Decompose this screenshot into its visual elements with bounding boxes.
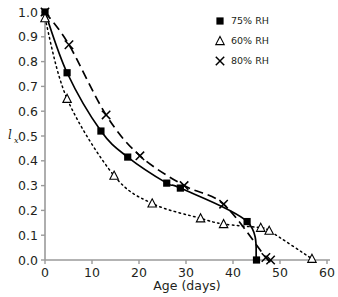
y-tick-label: 0.7: [18, 79, 38, 94]
data-point-80-rh: [65, 41, 73, 49]
series-markers-group: [41, 8, 316, 264]
y-tick-label: 0.5: [18, 129, 38, 144]
chart-container: 0.00.10.20.30.40.50.60.70.80.91.0 010203…: [0, 0, 338, 297]
data-point-60-rh: [219, 219, 227, 227]
x-tick-label: 40: [225, 265, 241, 280]
data-point-75-rh: [253, 256, 260, 263]
series-line-60-rh: [45, 18, 312, 259]
legend-label: 80% RH: [231, 55, 269, 66]
survivorship-chart: 0.00.10.20.30.40.50.60.70.80.91.0 010203…: [0, 0, 338, 297]
y-tick-label: 0.9: [18, 29, 38, 44]
y-tick-label: 0.6: [18, 104, 38, 119]
data-point-75-rh: [244, 218, 251, 225]
y-tick-label: 0.4: [18, 153, 38, 168]
y-tick-label: 0.0: [18, 253, 38, 268]
x-tick-label: 20: [131, 265, 147, 280]
data-point-80-rh: [102, 111, 110, 119]
y-tick-label: 0.8: [18, 54, 38, 69]
y-axis-title-base: l: [8, 128, 12, 142]
x-tick-label: 0: [41, 265, 49, 280]
legend-marker-filled-square: [216, 17, 223, 24]
x-tick-label: 10: [84, 265, 100, 280]
legend-marker-open-triangle: [216, 36, 224, 44]
x-axis-ticks: 0102030405060: [41, 260, 335, 280]
data-point-60-rh: [63, 94, 71, 102]
x-tick-label: 50: [272, 265, 288, 280]
legend-marker-cross: [216, 57, 224, 65]
data-point-60-rh: [308, 254, 316, 262]
legend-label: 75% RH: [231, 15, 269, 26]
y-tick-label: 0.2: [18, 203, 38, 218]
legend-label: 60% RH: [231, 35, 269, 46]
data-point-75-rh: [63, 69, 70, 76]
axes-group: [45, 12, 330, 260]
y-tick-label: 1.0: [18, 5, 38, 20]
data-point-80-rh: [136, 152, 144, 160]
data-point-60-rh: [196, 214, 204, 222]
x-tick-label: 60: [319, 265, 335, 280]
series-line-80-rh: [45, 12, 271, 262]
data-point-60-rh: [265, 226, 273, 234]
y-tick-label: 0.3: [18, 178, 38, 193]
data-point-75-rh: [163, 180, 170, 187]
series-lines-group: [45, 12, 312, 262]
y-axis-title-subscript: x: [14, 136, 19, 145]
y-tick-label: 0.1: [18, 228, 38, 243]
y-axis-ticks: 0.00.10.20.30.40.50.60.70.80.91.0: [18, 5, 45, 268]
data-point-60-rh: [148, 199, 156, 207]
data-point-75-rh: [97, 127, 104, 134]
x-axis-title: Age (days): [153, 278, 220, 293]
data-point-75-rh: [177, 184, 184, 191]
data-point-75-rh: [124, 153, 131, 160]
legend: 75% RH60% RH80% RH: [216, 15, 269, 66]
